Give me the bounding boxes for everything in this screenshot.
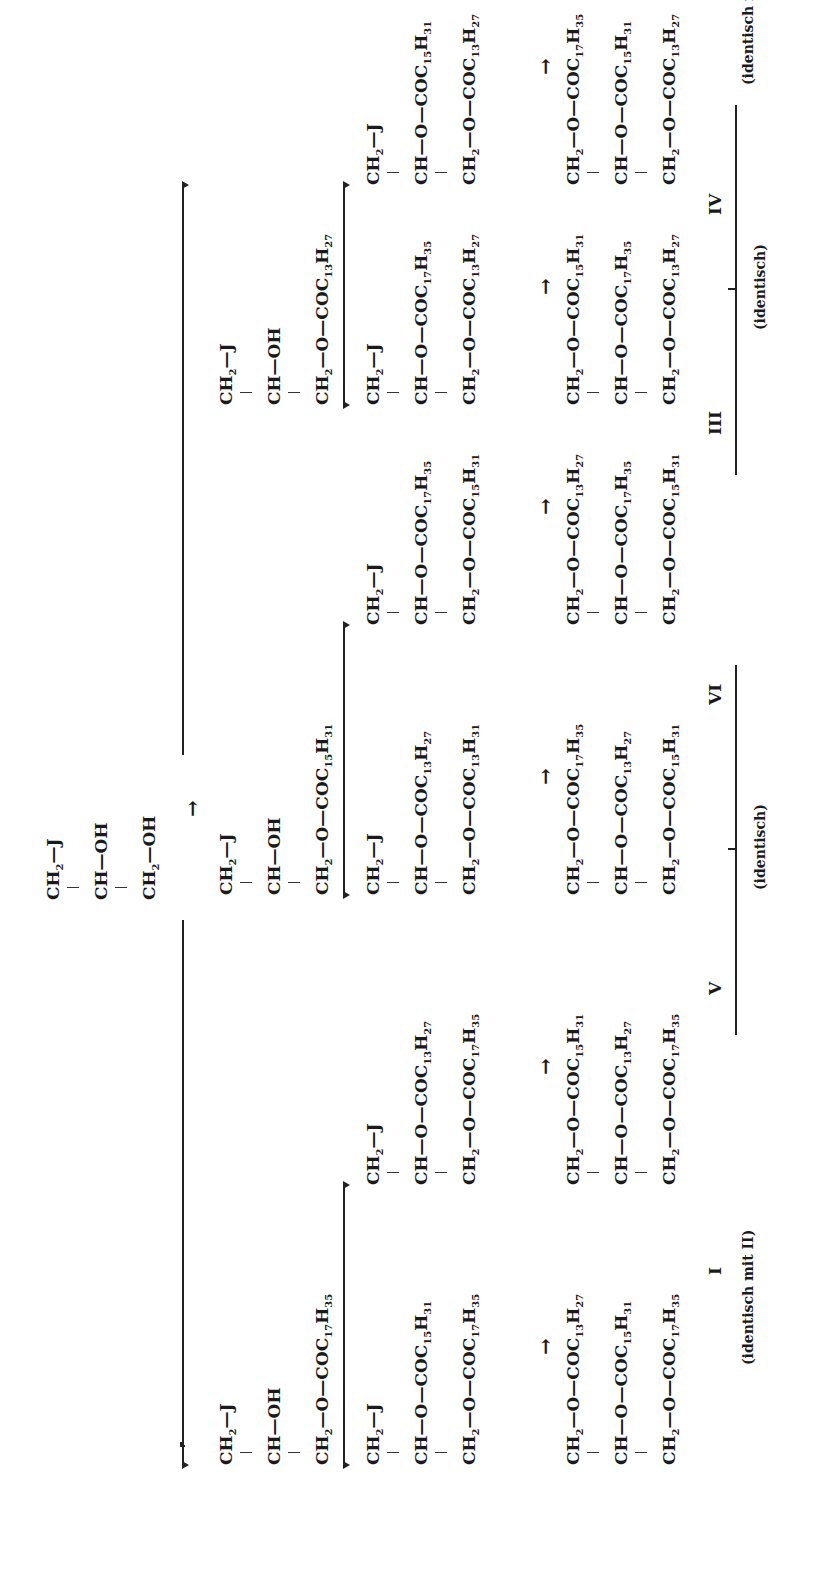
formula-row: CH2—J [218, 343, 238, 405]
formula-row: CH—O—COC13H27 [413, 731, 433, 895]
bond-line [635, 1452, 647, 1453]
arrowhead-icon [182, 1461, 189, 1469]
reaction-arrow-icon: → [535, 1058, 555, 1075]
identity-brace-label: (identisch) [752, 804, 768, 890]
reaction-arrow-icon: → [535, 498, 555, 515]
bond-line [587, 612, 599, 613]
formula-row: CH2—O—COC13H27 [565, 454, 585, 625]
rotated-figure: CH2—JCH—OHCH2—OH→CH2—JCH—OHCH2—O—COC17H3… [0, 0, 819, 1587]
diester-connector [343, 185, 345, 405]
formula-row: CH—OH [93, 823, 110, 900]
identity-note: (identisch mit I) [740, 0, 756, 85]
identity-brace [735, 105, 747, 475]
formula-row: CH—O—COC17H35 [413, 241, 433, 405]
bond-line [587, 392, 599, 393]
arrowhead-icon [343, 1181, 350, 1189]
formula-row: CH—O—COC17H35 [413, 461, 433, 625]
reaction-arrow-icon: → [535, 1338, 555, 1355]
formula-row: CH2—O—COC15H31 [661, 724, 681, 895]
bond-line [635, 392, 647, 393]
identity-brace-label: (identisch) [752, 244, 768, 330]
formula-row: CH2—O—COC15H31 [565, 234, 585, 405]
formula-row: CH2—O—COC17H35 [461, 1014, 481, 1185]
bond-line [587, 172, 599, 173]
bond-line [288, 882, 300, 883]
arrowhead-icon [182, 181, 189, 189]
formula-row: CH2—O—COC15H31 [565, 1014, 585, 1185]
formula-row: CH2—O—COC17H35 [565, 14, 585, 185]
formula-row: CH—O—COC17H35 [613, 461, 633, 625]
formula-row: CH2—J [218, 1403, 238, 1465]
bond-line [435, 172, 447, 173]
reaction-arrow-icon: → [535, 58, 555, 75]
formula-row: CH2—O—COC17H35 [314, 1294, 334, 1465]
reaction-arrow-icon: → [535, 768, 555, 785]
formula-row: CH—OH [266, 328, 283, 405]
bond-line [635, 882, 647, 883]
formula-row: CH—OH [266, 818, 283, 895]
formula-row: CH2—O—COC13H27 [661, 14, 681, 185]
formula-row: CH—OH [266, 1388, 283, 1465]
formula-row: CH—O—COC13H27 [613, 1021, 633, 1185]
formula-row: CH2—J [365, 563, 385, 625]
bond-line [435, 1172, 447, 1173]
formula-row: CH2—O—COC15H31 [461, 454, 481, 625]
arrowhead-icon [343, 891, 350, 899]
formula-row: CH2—O—COC13H27 [461, 234, 481, 405]
formula-row: CH2—O—COC13H27 [661, 234, 681, 405]
formula-row: CH—O—COC13H27 [413, 1021, 433, 1185]
bond-line [288, 392, 300, 393]
diester-connector [343, 625, 345, 895]
bond-line [435, 392, 447, 393]
formula-row: CH2—J [45, 838, 65, 900]
formula-row: CH2—O—COC13H27 [565, 1294, 585, 1465]
arrowhead-icon [343, 401, 350, 409]
bond-line [387, 172, 399, 173]
bond-line [635, 172, 647, 173]
bond-line [240, 392, 252, 393]
formula-row: CH—O—COC15H31 [413, 1301, 433, 1465]
formula-row: CH2—J [365, 343, 385, 405]
compound-label-VI: VI [705, 684, 725, 705]
compound-label-IV: IV [705, 194, 725, 215]
formula-row: CH—O—COC15H31 [613, 1301, 633, 1465]
compound-label-III: III [705, 411, 725, 435]
formula-row: CH2—J [365, 833, 385, 895]
identity-note: (identisch mit II) [740, 1230, 756, 1365]
formula-row: CH—O—COC17H35 [613, 241, 633, 405]
arrowhead-icon [343, 181, 350, 189]
formula-row: CH2—O—COC15H31 [314, 724, 334, 895]
formula-row: CH2—O—COC15H31 [661, 454, 681, 625]
bond-line [435, 612, 447, 613]
formula-row: CH2—O—COC17H35 [565, 724, 585, 895]
formula-row: CH2—J [365, 1123, 385, 1185]
bond-line [587, 1172, 599, 1173]
formula-row: CH2—J [218, 833, 238, 895]
formula-row: CH2—O—COC13H31 [461, 724, 481, 895]
formula-row: CH2—O—COC13H27 [314, 234, 334, 405]
compound-label-I: I [705, 1267, 725, 1275]
identity-brace [735, 665, 747, 1035]
formula-row: CH2—O—COC17H35 [661, 1294, 681, 1465]
bond-line [240, 882, 252, 883]
formula-row: CH—O—COC15H31 [613, 21, 633, 185]
compound-label-V: V [705, 982, 725, 995]
formula-row: CH2—J [365, 1403, 385, 1465]
bond-line [587, 882, 599, 883]
formula-row: CH—O—COC13H27 [613, 731, 633, 895]
bond-line [435, 1452, 447, 1453]
formula-row: CH—O—COC15H31 [413, 21, 433, 185]
bond-line [115, 887, 127, 888]
bond-line [240, 1452, 252, 1453]
bond-line [587, 1452, 599, 1453]
bond-line [635, 1172, 647, 1173]
formula-row: CH2—J [365, 123, 385, 185]
formula-row: CH2—O—COC17H35 [461, 1294, 481, 1465]
bond-line [387, 882, 399, 883]
branch-connector-right [182, 185, 184, 755]
formula-row: CH2—O—COC13H27 [461, 14, 481, 185]
bond-line [435, 882, 447, 883]
bond-line [387, 1452, 399, 1453]
formula-row: CH2—OH [141, 816, 161, 900]
bond-line [288, 1452, 300, 1453]
